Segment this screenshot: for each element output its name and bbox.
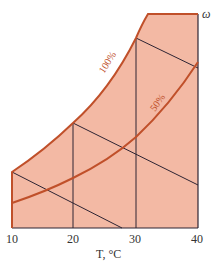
label-100-percent: 100% [96,49,118,75]
psychrometric-chart: 100% 50% ω 10 20 30 40 T, °C [0,0,219,267]
tick-10: 10 [6,232,18,246]
tick-40: 40 [191,232,203,246]
chart-region-fill [12,14,198,228]
x-axis-label: T, °C [96,247,121,261]
omega-label: ω [202,7,210,21]
tick-30: 30 [129,232,141,246]
tick-20: 20 [67,232,79,246]
